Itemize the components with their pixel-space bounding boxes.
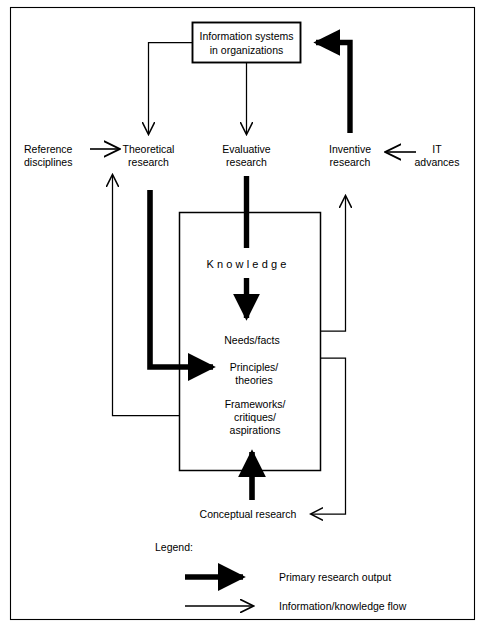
principles-theories-line2: theories [235, 374, 272, 386]
legend-title: Legend: [155, 541, 193, 553]
information-systems-line1: Information systems [200, 30, 294, 42]
knowledge-label: Knowledge [206, 258, 289, 270]
it-advances-line2: advances [415, 156, 460, 168]
theoretical-research-line1: Theoretical [123, 143, 175, 155]
is-research-framework-diagram: Information systems in organizations Ref… [0, 0, 485, 626]
reference-disciplines-line2: disciplines [24, 156, 72, 168]
evaluative-research-line2: research [226, 156, 267, 168]
inventive-research-line1: Inventive [329, 143, 371, 155]
information-systems-box [193, 23, 301, 63]
reference-disciplines-line1: Reference [24, 143, 73, 155]
frameworks-line1: Frameworks/ [225, 398, 286, 410]
evaluative-research-line1: Evaluative [222, 143, 271, 155]
frameworks-line3: aspirations [230, 424, 281, 436]
legend-item-0-label: Primary research output [279, 571, 391, 583]
theoretical-research-line2: research [128, 156, 169, 168]
frameworks-line2: critiques/ [234, 411, 276, 423]
outer-frame [11, 8, 475, 620]
it-advances-line1: IT [432, 143, 442, 155]
needs-facts-label: Needs/facts [224, 334, 279, 346]
legend-item-1-label: Information/knowledge flow [279, 600, 407, 612]
principles-theories-line1: Principles/ [230, 361, 279, 373]
inventive-research-line2: research [330, 156, 371, 168]
information-systems-line2: in organizations [210, 44, 284, 56]
diagram-canvas: Information systems in organizations Ref… [0, 0, 485, 626]
conceptual-research-label: Conceptual research [200, 508, 297, 520]
